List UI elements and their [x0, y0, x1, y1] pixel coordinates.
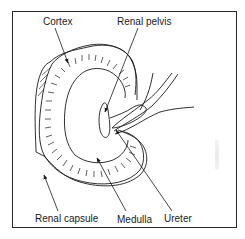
label-renal-pelvis: Renal pelvis	[117, 17, 171, 27]
medulla-boundary	[64, 68, 128, 162]
ureter-vessel-2	[114, 74, 178, 131]
cortex-hatching	[45, 54, 136, 177]
renal-capsule-outline	[35, 45, 147, 186]
medulla-boundary-top	[120, 80, 125, 98]
label-cortex: Cortex	[43, 17, 72, 27]
cortex-leader	[55, 28, 68, 63]
renal-pelvis-leader	[105, 28, 138, 112]
cortex-outer-edge	[39, 44, 143, 184]
renal-pelvis-shape	[99, 103, 110, 138]
ureter-leader	[116, 130, 172, 211]
label-ureter: Ureter	[164, 214, 192, 224]
renal-capsule-leader	[44, 175, 58, 211]
label-renal-capsule: Renal capsule	[35, 214, 98, 224]
kidney-illustration	[0, 0, 245, 239]
label-medulla: Medulla	[117, 215, 152, 225]
